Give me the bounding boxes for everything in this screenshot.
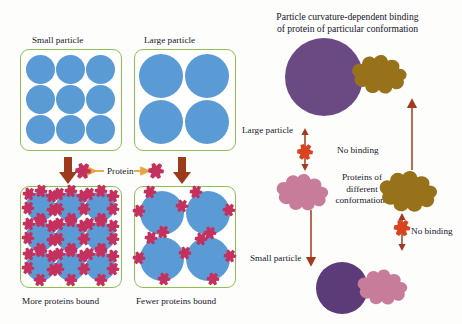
arrow-no-binding-upper xyxy=(297,128,313,171)
particle-blue xyxy=(56,55,85,84)
particle-blue-bound xyxy=(26,222,55,251)
particle-blue-bound xyxy=(56,192,85,221)
label-large-particle-right: Large particle xyxy=(242,125,293,136)
particle-blue xyxy=(26,115,55,144)
particle-blue xyxy=(26,55,55,84)
arrow-down-large xyxy=(173,157,191,184)
particle-blue xyxy=(26,85,55,114)
particle-blue-bound xyxy=(86,192,115,221)
particle-blue xyxy=(56,115,85,144)
label-small-particle-right: Small particle xyxy=(250,253,301,264)
label-no-binding-lower: No binding xyxy=(411,226,453,237)
particle-blue-large xyxy=(139,54,183,98)
particle-blue-large xyxy=(185,54,229,98)
label-small-particle-top: Small particle xyxy=(32,35,83,46)
particle-blue-large-bound xyxy=(186,237,230,281)
particle-blue xyxy=(86,115,115,144)
right-panel-title-line1: Particle curvature-dependent binding xyxy=(276,11,418,22)
proteins-label-line3: conformations xyxy=(335,195,388,205)
particle-blue xyxy=(56,85,85,114)
label-proteins-of-different-conformations: Proteins of different conformations xyxy=(325,172,399,207)
no-binding-cross-upper xyxy=(297,144,313,160)
particle-blue-bound xyxy=(56,222,85,251)
particle-blue-bound xyxy=(86,222,115,251)
particle-blue-large-bound xyxy=(140,191,184,235)
right-panel-title-line2: of protein of particular conformation xyxy=(277,23,418,34)
particle-blue-bound xyxy=(26,252,55,281)
label-protein: Protein xyxy=(107,166,134,177)
label-no-binding-upper: No binding xyxy=(337,145,379,156)
particle-blue-large-bound xyxy=(186,191,230,235)
proteins-label-line1: Proteins of xyxy=(342,172,382,182)
particle-blue-large xyxy=(185,100,229,144)
particle-blue-bound xyxy=(26,192,55,221)
particle-blue xyxy=(86,55,115,84)
no-binding-cross-lower xyxy=(394,220,411,237)
large-purple-particle xyxy=(285,38,363,116)
label-more-proteins-bound: More proteins bound xyxy=(22,296,99,307)
particle-blue-large-bound xyxy=(140,237,184,281)
small-purple-particle xyxy=(316,262,368,314)
label-fewer-proteins-bound: Fewer proteins bound xyxy=(136,296,216,307)
arrow-no-binding-lower xyxy=(394,213,411,251)
label-large-particle-top: Large particle xyxy=(144,35,195,46)
particle-blue-bound xyxy=(86,252,115,281)
pink-protein-free xyxy=(277,174,328,210)
particle-blue-large xyxy=(139,100,183,144)
particle-blue xyxy=(86,85,115,114)
proteins-label-line2: different xyxy=(346,184,377,194)
figure-canvas: Small particle Large particle Protein Mo… xyxy=(0,0,462,324)
particle-blue-bound xyxy=(56,252,85,281)
arrow-down-small xyxy=(59,157,77,184)
